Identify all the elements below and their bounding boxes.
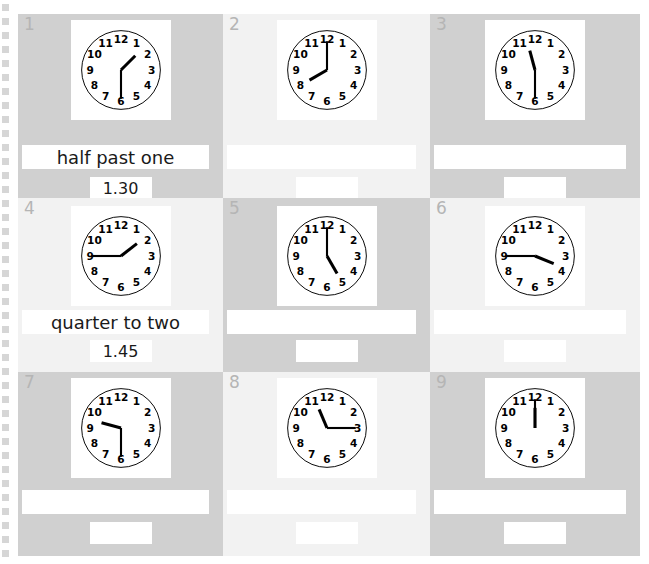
clock-card-4: 123456789101112 [71,206,171,306]
clock-numeral-7: 7 [307,448,314,460]
clock-numeral-9: 9 [292,422,299,434]
clock-face-3: 123456789101112 [487,22,583,118]
binding-hole [2,438,9,445]
clock-numeral-11: 11 [98,395,113,407]
clock-numeral-4: 4 [143,265,150,277]
clock-numeral-12: 12 [319,391,334,403]
clock-numeral-11: 11 [304,37,319,49]
binding-hole [2,298,9,305]
binding-hole [2,480,9,487]
cell-number-label: 9 [436,374,447,391]
clock-numeral-8: 8 [296,79,303,91]
clock-numeral-7: 7 [101,276,108,288]
clock-numeral-7: 7 [516,448,523,460]
binding-hole [2,508,9,515]
clock-numeral-8: 8 [505,79,512,91]
binding-hole [2,424,9,431]
clock-numeral-5: 5 [132,448,139,460]
clock-numeral-12: 12 [528,219,543,231]
binding-hole [2,46,9,53]
answer-digits-box-9[interactable] [504,522,566,544]
clock-numeral-6: 6 [323,95,330,107]
answer-words-box-9[interactable] [434,490,626,514]
answer-digits-box-4[interactable]: 1.45 [90,340,152,362]
clock-card-9: 123456789101112 [485,378,585,478]
clock-numeral-12: 12 [113,219,128,231]
clock-numeral-10: 10 [501,48,516,60]
clock-numeral-12: 12 [113,391,128,403]
clock-numeral-11: 11 [512,223,527,235]
binding-hole [2,522,9,529]
clock-numeral-10: 10 [293,48,308,60]
clock-numeral-3: 3 [354,250,361,262]
answer-digits-box-6[interactable] [504,340,566,362]
answer-words-box-6[interactable] [434,310,626,334]
answer-digits-box-8[interactable] [296,522,358,544]
clock-numeral-10: 10 [501,234,516,246]
cell-number-label: 6 [436,200,447,217]
cell-number-label: 7 [24,374,35,391]
clock-numeral-4: 4 [143,79,150,91]
clock-face-4: 123456789101112 [73,208,169,304]
answer-digits-box-3[interactable] [504,177,566,198]
worksheet-cell-8: 8123456789101112 [223,372,430,556]
binding-hole [2,466,9,473]
clock-numeral-8: 8 [505,265,512,277]
binding-hole [2,270,9,277]
clock-numeral-3: 3 [148,64,155,76]
cell-number-label: 5 [229,200,240,217]
binding-hole [2,410,9,417]
clock-numeral-1: 1 [547,395,554,407]
worksheet-cell-7: 7123456789101112 [18,372,223,556]
binding-hole [2,130,9,137]
answer-digits-box-5[interactable] [296,340,358,362]
binding-hole [2,116,9,123]
binding-hole [2,186,9,193]
answer-words-box-1[interactable]: half past one [22,145,209,169]
worksheet-cell-3: 3123456789101112 [430,14,640,198]
answer-digits-box-2[interactable] [296,177,358,198]
cell-number-label: 4 [24,200,35,217]
clock-numeral-12: 12 [528,33,543,45]
clock-numeral-1: 1 [338,223,345,235]
clock-face-5: 123456789101112 [279,208,375,304]
binding-hole [2,326,9,333]
clock-numeral-1: 1 [132,395,139,407]
worksheet-cell-2: 2123456789101112 [223,14,430,198]
clock-numeral-11: 11 [98,37,113,49]
clock-numeral-11: 11 [512,395,527,407]
worksheet-cell-1: 1123456789101112half past one1.30 [18,14,223,198]
binding-hole [2,200,9,207]
clock-numeral-2: 2 [349,234,356,246]
clock-numeral-5: 5 [338,448,345,460]
binding-hole [2,18,9,25]
clock-numeral-7: 7 [516,90,523,102]
answer-words-box-8[interactable] [227,490,416,514]
clock-numeral-7: 7 [101,448,108,460]
answer-words-box-7[interactable] [22,490,209,514]
clock-card-8: 123456789101112 [277,378,377,478]
answer-words-box-4[interactable]: quarter to two [22,310,209,334]
worksheet-cell-9: 9123456789101112 [430,372,640,556]
clock-numeral-2: 2 [558,406,565,418]
clock-numeral-3: 3 [562,250,569,262]
binding-hole [2,144,9,151]
binding-hole [2,214,9,221]
clock-face-8: 123456789101112 [279,380,375,476]
answer-digits-box-1[interactable]: 1.30 [90,177,152,198]
clock-face-6: 123456789101112 [487,208,583,304]
binding-hole [2,452,9,459]
clock-numeral-9: 9 [292,250,299,262]
binding-hole [2,4,9,11]
answer-digits-box-7[interactable] [90,522,152,544]
clock-numeral-11: 11 [512,37,527,49]
answer-words-box-2[interactable] [227,145,416,169]
answer-words-box-5[interactable] [227,310,416,334]
clock-numeral-2: 2 [143,406,150,418]
clock-numeral-8: 8 [296,437,303,449]
answer-words-box-3[interactable] [434,145,626,169]
worksheet-cell-4: 4123456789101112quarter to two1.45 [18,198,223,372]
clock-numeral-8: 8 [505,437,512,449]
binding-hole [2,536,9,543]
clock-numeral-2: 2 [143,234,150,246]
